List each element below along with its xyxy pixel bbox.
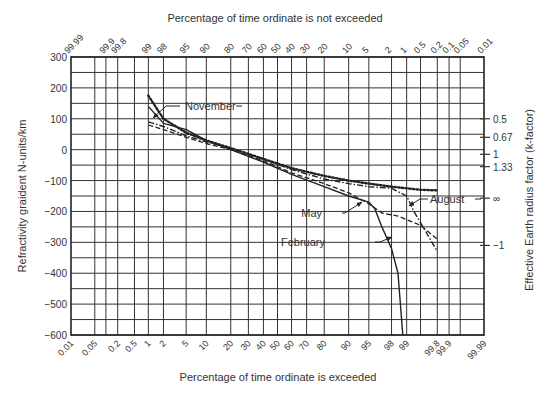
x-tick-label-bottom: 95 <box>359 338 373 352</box>
x-tick-label-bottom: 60 <box>282 338 296 352</box>
x-axis-bottom-ticks: 0.010.050.20.512510203040506070809095989… <box>56 338 488 361</box>
x-tick-label-top: 99 <box>140 41 154 55</box>
data-series <box>148 96 437 335</box>
y-axis-label: Refractivity graident N-units/km <box>16 120 28 273</box>
right-axis-ticks: 0.50.6711.33∞−1 <box>480 114 513 252</box>
x-tick-label-bottom: 30 <box>239 338 253 352</box>
annotation-november: November <box>185 100 236 112</box>
x-tick-label-top: 20 <box>316 41 330 55</box>
y-tick-label: −300 <box>44 237 67 248</box>
right-tick-label: 1 <box>493 149 499 160</box>
annotation-arrow <box>153 106 166 118</box>
y-tick-label: −500 <box>44 299 67 310</box>
x-tick-label-bottom: 70 <box>297 338 311 352</box>
x-tick-label-bottom: 80 <box>314 338 328 352</box>
x-tick-label-bottom: 50 <box>268 338 282 352</box>
y-tick-label: 200 <box>50 83 67 94</box>
x-axis-bottom-label: Percentage of time ordinate is exceeded <box>180 371 377 383</box>
x-tick-label-bottom: 40 <box>254 338 268 352</box>
x-tick-label-top: 70 <box>240 41 254 55</box>
x-axis-top-label: Percentage of time ordinate is not excee… <box>167 12 382 24</box>
x-tick-label-top: 40 <box>283 41 297 55</box>
right-axis-label: Effective Earth radius factor (k-factor) <box>523 109 535 291</box>
x-tick-label-bottom: 99.99 <box>465 338 488 361</box>
x-tick-label-bottom: 0.05 <box>80 338 99 357</box>
x-tick-label-top: 95 <box>178 41 192 55</box>
x-tick-label-top: 60 <box>255 41 269 55</box>
annotation-arrow <box>409 199 420 206</box>
x-axis-top-ticks: 99.9999.999.8999895908070605040302010521… <box>62 32 494 55</box>
x-tick-label-top: 0.5 <box>412 39 428 55</box>
grid <box>71 57 484 335</box>
annotation-august: August <box>430 193 464 205</box>
x-tick-label-top: 5 <box>360 45 371 56</box>
x-tick-label-top: 0.01 <box>475 36 494 55</box>
series-may <box>148 125 437 239</box>
x-tick-label-bottom: 98 <box>382 338 396 352</box>
annotation-may: May <box>301 207 322 219</box>
y-tick-label: 100 <box>50 114 67 125</box>
right-tick-label: 0.67 <box>493 132 513 143</box>
right-tick-label: 0.5 <box>493 114 507 125</box>
y-tick-label: 0 <box>61 145 67 156</box>
x-tick-label-bottom: 90 <box>339 338 353 352</box>
y-tick-label: −600 <box>44 330 67 341</box>
refractivity-chart: 3002001000−100−200−300−400−500−600 0.010… <box>0 0 550 394</box>
right-tick-label: 1.33 <box>493 162 513 173</box>
y-tick-label: −100 <box>44 176 67 187</box>
x-tick-label-bottom: 2 <box>157 338 168 349</box>
x-tick-label-bottom: 5 <box>180 338 191 349</box>
x-tick-label-top: 0.05 <box>452 36 471 55</box>
x-tick-label-bottom: 99 <box>397 338 411 352</box>
y-tick-label: −400 <box>44 268 67 279</box>
x-tick-label-top: 98 <box>155 41 169 55</box>
x-tick-label-bottom: 0.5 <box>123 338 139 354</box>
y-tick-label: 300 <box>50 52 67 63</box>
x-tick-label-bottom: 10 <box>197 338 211 352</box>
x-tick-label-top: 80 <box>222 41 236 55</box>
right-tick-label: ∞ <box>493 193 500 204</box>
x-tick-label-top: 99.99 <box>62 32 85 55</box>
x-tick-label-bottom: 1 <box>142 338 153 349</box>
y-axis-ticks: 3002001000−100−200−300−400−500−600 <box>44 52 67 341</box>
x-tick-label-top: 1 <box>398 45 409 56</box>
x-tick-label-top: 50 <box>269 41 283 55</box>
x-tick-label-top: 30 <box>298 41 312 55</box>
x-tick-label-bottom: 0.2 <box>106 338 122 354</box>
right-tick-label: −1 <box>493 240 505 251</box>
x-tick-label-top: 2 <box>383 45 394 56</box>
x-tick-label-top: 90 <box>198 41 212 55</box>
x-tick-label-bottom: 20 <box>221 338 235 352</box>
y-tick-label: −200 <box>44 206 67 217</box>
x-tick-label-top: 10 <box>340 41 354 55</box>
x-tick-label-bottom: 0.01 <box>56 338 75 357</box>
annotation-february: February <box>281 236 326 248</box>
